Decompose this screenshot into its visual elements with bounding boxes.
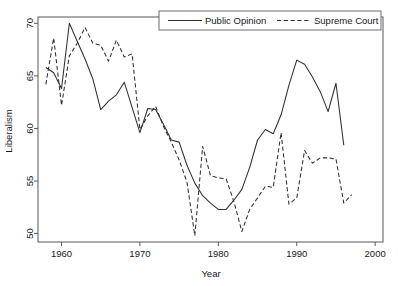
series-lines <box>46 23 352 235</box>
x-tick-label: 1990 <box>286 248 307 259</box>
x-tick-label: 1970 <box>129 248 150 259</box>
y-tick-label: 50 <box>24 228 35 239</box>
y-tick-label: 70 <box>24 18 35 29</box>
legend-label-supreme-court: Supreme Court <box>314 15 379 26</box>
series-line-supreme-court <box>46 28 352 236</box>
x-tick-label: 1980 <box>208 248 229 259</box>
x-tick-label: 1960 <box>51 248 72 259</box>
x-axis-title: Year <box>201 268 220 279</box>
y-axis-title: Liberalism <box>3 109 14 152</box>
plot-border <box>38 17 383 242</box>
y-tick-label: 60 <box>24 123 35 134</box>
legend-label-public-opinion: Public Opinion <box>205 15 266 26</box>
plot-frame <box>38 17 383 242</box>
liberalism-line-chart: 5055606570 19601970198019902000 Liberali… <box>0 0 398 286</box>
y-axis-ticks: 5055606570 <box>24 18 38 239</box>
y-tick-label: 55 <box>24 176 35 187</box>
chart-container: 5055606570 19601970198019902000 Liberali… <box>0 0 398 286</box>
x-axis-ticks: 19601970198019902000 <box>51 242 386 259</box>
y-tick-label: 65 <box>24 71 35 82</box>
x-tick-label: 2000 <box>365 248 386 259</box>
chart-legend: Public OpinionSupreme Court <box>159 11 381 30</box>
